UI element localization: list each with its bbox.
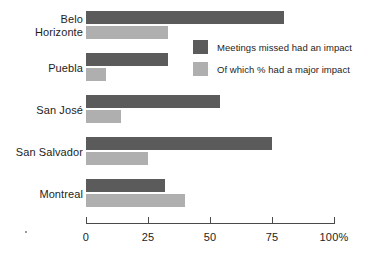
legend-swatch-icon-impact bbox=[193, 40, 208, 54]
legend-item-impact: Meetings missed had an impact bbox=[193, 38, 352, 56]
bar-puebla-major-impact bbox=[86, 68, 106, 81]
bar-belo-horizonte-major-impact bbox=[86, 26, 168, 39]
x-axis-tick-label-50: 50 bbox=[204, 231, 217, 243]
x-axis-tick-100% bbox=[334, 217, 335, 224]
x-axis-tick-25 bbox=[148, 217, 149, 224]
legend-label-major-impact: Of which % had a major impact bbox=[217, 64, 350, 75]
bar-san-jose-impact bbox=[86, 95, 220, 108]
x-axis-tick-75 bbox=[272, 217, 273, 224]
x-axis-tick-label-25: 25 bbox=[142, 231, 155, 243]
x-axis-tick-label-0: 0 bbox=[83, 231, 89, 243]
x-axis-tick-label-75: 75 bbox=[266, 231, 279, 243]
bar-puebla-impact bbox=[86, 53, 168, 66]
category-label-puebla: Puebla bbox=[48, 62, 83, 75]
bar-san-salvador-impact bbox=[86, 137, 272, 150]
legend-label-impact: Meetings missed had an impact bbox=[217, 42, 352, 53]
category-label-montreal: Montreal bbox=[39, 188, 83, 201]
legend: Meetings missed had an impact Of which %… bbox=[193, 38, 352, 82]
bar-montreal-impact bbox=[86, 179, 165, 192]
x-axis-tick-label-100%: 100% bbox=[320, 231, 349, 243]
bar-montreal-major-impact bbox=[86, 194, 185, 207]
x-axis-tick-0 bbox=[86, 217, 87, 224]
category-label-san-jose: San José bbox=[36, 104, 83, 117]
bar-san-jose-major-impact bbox=[86, 110, 121, 123]
legend-item-major-impact: Of which % had a major impact bbox=[193, 60, 352, 78]
x-axis-tick-50 bbox=[210, 217, 211, 224]
category-label-san-salvador: San Salvador bbox=[16, 146, 83, 159]
bar-san-salvador-major-impact bbox=[86, 152, 148, 165]
bar-belo-horizonte-impact bbox=[86, 11, 284, 24]
category-label-belo-horizonte: Belo Horizonte bbox=[35, 13, 83, 38]
stray-speck-mark bbox=[25, 231, 27, 233]
legend-swatch-icon-major-impact bbox=[193, 62, 208, 76]
horizontal-bar-chart: Belo Horizonte Puebla San José San Salva… bbox=[0, 0, 367, 258]
